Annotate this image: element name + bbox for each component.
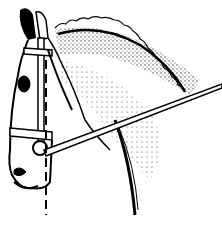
bridle bbox=[10, 38, 72, 155]
head-outline bbox=[9, 38, 110, 188]
ears bbox=[20, 8, 48, 40]
horse-head-drawing bbox=[0, 0, 222, 235]
horse-illustration bbox=[0, 0, 222, 235]
